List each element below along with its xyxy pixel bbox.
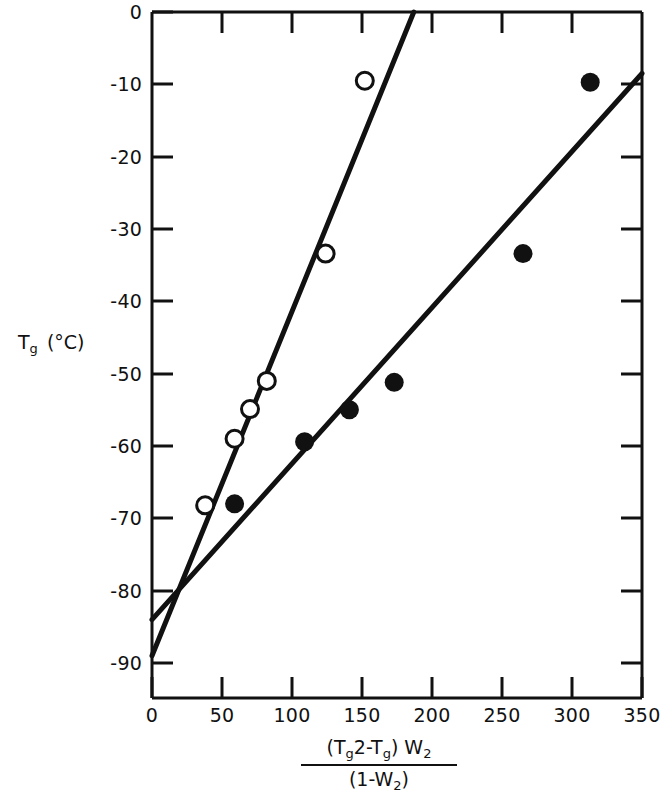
trend-line-open-series — [152, 12, 414, 656]
denominator-part-1: (1-W — [349, 768, 393, 790]
data-point — [295, 432, 314, 451]
x-tick-label-300: 300 — [542, 706, 602, 725]
data-point — [581, 73, 600, 92]
x-axis-ticks — [152, 677, 642, 698]
numerator-part-4: ) W — [391, 736, 423, 758]
data-point — [258, 372, 275, 389]
x-tick-label-150: 150 — [332, 706, 392, 725]
x-axis-ticks-top — [222, 12, 572, 33]
y-tick-label-40: -40 — [86, 292, 142, 311]
y-tick-label-50: -50 — [86, 365, 142, 384]
data-markers-open-circle — [197, 72, 374, 514]
numerator-sub-1: g — [346, 746, 354, 761]
y-tick-label-10: -10 — [86, 75, 142, 94]
y-tick-label-0: 0 — [86, 3, 142, 22]
data-point — [226, 430, 243, 447]
chart-figure: 0 -10 -20 -30 -40 -50 -60 -70 -80 -90 0 … — [0, 0, 670, 806]
data-point — [197, 497, 214, 514]
y-axis-ticks — [152, 12, 173, 663]
y-axis-title-unit: (°C) — [47, 331, 85, 353]
y-tick-label-60: -60 — [86, 437, 142, 456]
data-point — [340, 400, 359, 419]
axes-frame — [152, 12, 642, 698]
x-tick-label-0: 0 — [122, 706, 182, 725]
data-point — [514, 244, 533, 263]
y-tick-label-30: -30 — [86, 220, 142, 239]
data-point — [242, 401, 259, 418]
x-tick-label-200: 200 — [402, 706, 462, 725]
denominator-sub-1: 2 — [393, 778, 401, 793]
data-point — [356, 72, 373, 89]
numerator-part-1: (T — [327, 736, 346, 758]
x-tick-label-250: 250 — [472, 706, 532, 725]
y-axis-ticks-right — [621, 84, 642, 663]
x-tick-label-350: 350 — [612, 706, 670, 725]
x-tick-label-50: 50 — [192, 706, 252, 725]
x-axis-title-numerator: (Tg2-Tg) W2 — [279, 738, 479, 764]
data-point — [225, 494, 244, 513]
y-tick-label-20: -20 — [86, 148, 142, 167]
numerator-part-3: -T — [366, 736, 383, 758]
numerator-sub-3: 2 — [423, 746, 431, 761]
denominator-part-2: ) — [402, 768, 409, 790]
data-point — [385, 373, 404, 392]
y-axis-title: Tg(°C) — [18, 333, 84, 355]
y-tick-label-70: -70 — [86, 509, 142, 528]
trend-line-filled-series — [152, 73, 642, 619]
y-tick-label-80: -80 — [86, 582, 142, 601]
numerator-part-2: 2 — [354, 736, 366, 758]
plot-canvas — [0, 0, 670, 806]
data-point — [317, 245, 334, 262]
numerator-sub-2: g — [383, 746, 391, 761]
x-axis-title-denominator: (1-W2) — [279, 766, 479, 793]
y-tick-label-90: -90 — [86, 654, 142, 673]
x-axis-title: (Tg2-Tg) W2 (1-W2) — [279, 738, 479, 792]
x-tick-label-100: 100 — [262, 706, 322, 725]
y-axis-title-symbol: T — [18, 331, 30, 353]
y-axis-title-subscript: g — [30, 341, 38, 356]
data-markers-filled-circle — [225, 73, 600, 514]
